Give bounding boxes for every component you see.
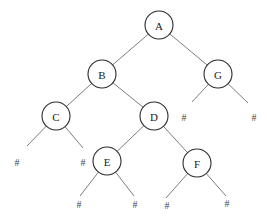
tree-nodes: ABGCDEF [42, 11, 232, 177]
edge-A-B [113, 34, 149, 65]
binary-tree-diagram: ABGCDEF ######## [0, 0, 267, 221]
null-edge-G-right [228, 84, 248, 103]
node-label: G [214, 69, 222, 81]
tree-node-a: A [145, 11, 173, 39]
null-edge-C-left [27, 126, 46, 146]
edge-B-D [113, 83, 143, 107]
edge-B-C [66, 83, 91, 106]
tree-node-d: D [140, 102, 168, 130]
null-marker-e-left: # [77, 199, 82, 210]
tree-node-e: E [93, 147, 121, 175]
node-label: B [98, 69, 105, 81]
tree-node-f: F [183, 149, 211, 177]
node-label: F [194, 158, 200, 170]
null-marker-c-left: # [15, 157, 20, 168]
tree-node-g: G [204, 60, 232, 88]
node-label: C [52, 111, 59, 123]
null-edge-C-right [65, 127, 83, 148]
edge-D-F [163, 126, 187, 152]
edge-A-G [170, 34, 207, 65]
null-marker-g-left: # [182, 112, 187, 123]
null-marker-g-right: # [252, 112, 257, 123]
null-marker-e-right: # [133, 199, 138, 210]
node-label: E [104, 156, 111, 168]
null-marker-f-right: # [225, 198, 230, 209]
null-marker-f-left: # [165, 200, 170, 211]
node-label: D [150, 111, 158, 123]
null-edge-F-right [206, 174, 226, 196]
null-edge-E-right [116, 172, 134, 196]
null-edges [27, 84, 248, 198]
null-edge-F-left [166, 173, 188, 198]
tree-edges [66, 34, 207, 153]
null-marker-c-right: # [81, 157, 86, 168]
edge-D-E [117, 126, 144, 152]
null-edge-E-left [80, 172, 98, 196]
null-edge-G-left [192, 84, 208, 102]
tree-node-c: C [42, 102, 70, 130]
tree-node-b: B [88, 60, 116, 88]
node-label: A [155, 20, 163, 32]
